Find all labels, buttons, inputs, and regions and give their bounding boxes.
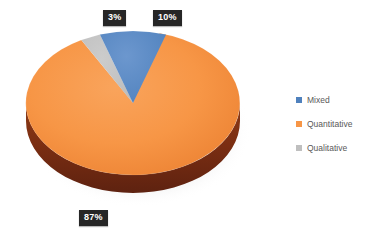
legend-item-quantitative[interactable]: Quantitative [296, 118, 374, 130]
chart-legend: Mixed Quantitative Qualitative [296, 94, 374, 154]
legend-label-mixed: Mixed [307, 95, 330, 105]
legend-item-qualitative[interactable]: Qualitative [296, 142, 374, 154]
legend-swatch-icon [296, 145, 302, 151]
data-label-qualitative: 3% [103, 10, 126, 26]
pie-chart: 3% 10% 87% Mixed Quantitative Qualitativ… [0, 0, 376, 237]
legend-swatch-icon [296, 121, 302, 127]
data-label-quantitative: 87% [79, 210, 108, 226]
legend-label-qualitative: Qualitative [307, 143, 347, 153]
legend-label-quantitative: Quantitative [307, 119, 352, 129]
legend-swatch-icon [296, 97, 302, 103]
pie-plot-area: 3% 10% 87% [0, 0, 270, 237]
data-label-mixed: 10% [153, 10, 182, 26]
legend-item-mixed[interactable]: Mixed [296, 94, 374, 106]
pie-graphic [0, 0, 270, 237]
